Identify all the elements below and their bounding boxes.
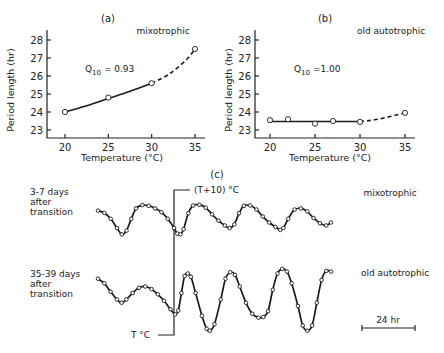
trace-1-sample-point — [242, 204, 246, 208]
q10-rest: = 0.93 — [101, 64, 134, 74]
panel-b: (b) old autotrophic Q10 =1.00 Temperatur… — [223, 13, 425, 163]
trace-2-sample-point — [96, 277, 100, 281]
trace-2-sample-point — [296, 304, 300, 308]
trace-2-sample-point — [228, 270, 232, 274]
panel-a-xtick-label: 20 — [59, 142, 72, 153]
trace-1-sample-point — [274, 225, 278, 229]
trace-2-sample-point — [120, 301, 124, 305]
trace-2-sample-point — [233, 273, 237, 277]
trace-1-sample-point — [120, 233, 124, 237]
panel-a-ytick-label: 24 — [30, 107, 43, 118]
trace-1-sample-point — [160, 210, 164, 214]
trace-1-sample-point — [217, 219, 221, 223]
step-label-high: (T+10) °C — [194, 185, 239, 195]
trace-1-sample-point — [103, 211, 107, 215]
trace-1-sample-point — [129, 217, 133, 221]
q10-main: Q — [85, 64, 92, 74]
trace-1-sample-point — [204, 206, 208, 210]
trace-1-sample-point — [134, 207, 138, 211]
trace-1-sample-point — [233, 223, 237, 227]
trace-2-sample-point — [173, 313, 177, 317]
panel-a-data-point — [149, 81, 154, 86]
trace-2-sample-point — [109, 290, 113, 294]
panel-a-condition: mixotrophic — [136, 26, 189, 36]
q10-sub: 10 — [301, 69, 310, 77]
trace-1-sample-point — [109, 217, 113, 221]
q10-sub: 10 — [92, 69, 101, 77]
panel-b-data-point — [267, 118, 272, 123]
trace-1-label-line-3: transition — [30, 207, 73, 217]
trace-2-sample-point — [320, 278, 324, 282]
panel-b-data-point — [312, 121, 317, 126]
panel-b-label: (b) — [318, 13, 332, 24]
panel-b-condition: old autotrophic — [357, 26, 425, 36]
trace-1-sample-point — [255, 208, 259, 212]
trace-2-sample-point — [131, 291, 135, 295]
trace-1-label-line-1: 3-7 days — [30, 187, 69, 197]
panel-a-data-point — [106, 95, 111, 100]
trace-1-sample-point — [318, 221, 322, 225]
trace-1-sample-point — [261, 215, 265, 219]
trace-2-sample-point — [244, 301, 248, 305]
panel-b-data-point — [285, 117, 290, 122]
panel-a-data-point — [192, 46, 197, 51]
panel-a-xtick-label: 35 — [189, 142, 202, 153]
panel-a-axes — [47, 30, 205, 138]
trace-2-sample-point — [176, 309, 180, 313]
trace-2-sample-point — [306, 329, 310, 333]
panel-a-xtick-label: 25 — [102, 142, 115, 153]
trace-2-sample-point — [238, 285, 242, 289]
trace-2-sample-point — [250, 312, 254, 316]
panel-b-fit-extrapolated — [360, 113, 405, 122]
trace-2-sample-point — [150, 287, 154, 291]
panel-b-ytick-label: 28 — [238, 35, 251, 46]
trace-2-sample-point — [290, 281, 294, 285]
trace-1-sample-point — [115, 226, 119, 230]
trace-1-sample-point — [282, 226, 286, 230]
trace-1-sample-point — [324, 224, 328, 228]
panel-c: (c) 3-7 days after transition 35-39 days… — [30, 169, 429, 340]
trace-2-sample-point — [137, 286, 141, 290]
trace-2-label-line-2: after — [30, 279, 52, 289]
panel-a-ytick-label: 25 — [30, 89, 43, 100]
q10-main: Q — [294, 64, 301, 74]
scale-bar — [362, 325, 415, 331]
panel-a-ytick-label: 27 — [30, 53, 43, 64]
trace-1-sample-point — [248, 204, 252, 208]
step-label-low: T °C — [130, 330, 150, 340]
trace-2-sample-point — [329, 270, 333, 274]
trace-2-sample-point — [180, 291, 184, 295]
panel-b-data-point — [357, 119, 362, 124]
panel-b-xlabel: Temperature (°C) — [288, 152, 371, 163]
panel-b-ylabel: Period length (hr) — [223, 48, 234, 131]
trace-2-label-line-1: 35-39 days — [30, 269, 81, 279]
trace-1-sample-point — [305, 210, 309, 214]
trace-2-sample-point — [266, 309, 270, 313]
panel-a-ytick-label: 28 — [30, 35, 43, 46]
trace-1-sample-point — [187, 211, 191, 215]
panel-b-ytick-label: 23 — [238, 125, 251, 136]
trace-2-condition: old autotrophic — [361, 268, 429, 278]
trace-2-sample-point — [310, 324, 314, 328]
trace-2-sample-point — [285, 270, 289, 274]
trace-1-sample-point — [198, 203, 202, 207]
trace-1-sample-point — [125, 229, 129, 233]
panel-a-data-point — [62, 109, 67, 114]
trace-2-sample-point — [324, 269, 328, 273]
panel-a-xtick-label: 30 — [145, 142, 158, 153]
trace-1-sample-point — [223, 224, 227, 228]
trace-1-sample-point — [191, 204, 195, 208]
trace-1-sample-point — [210, 213, 214, 217]
panel-b-xtick-label: 25 — [309, 142, 322, 153]
scale-bar-label: 24 hr — [376, 315, 400, 325]
panel-b-xtick-label: 20 — [264, 142, 277, 153]
q10-rest: =1.00 — [310, 64, 341, 74]
trace-1-condition: mixotrophic — [363, 188, 416, 198]
trace-2-sample-point — [224, 277, 228, 281]
trace-2-sample-point — [183, 274, 187, 278]
trace-1-sample-point — [179, 233, 183, 237]
trace-2-sample-point — [169, 307, 173, 311]
trace-1-sample-point — [329, 221, 333, 225]
trace-2-sample-point — [208, 329, 212, 333]
panel-b-xtick-label: 30 — [354, 142, 367, 153]
